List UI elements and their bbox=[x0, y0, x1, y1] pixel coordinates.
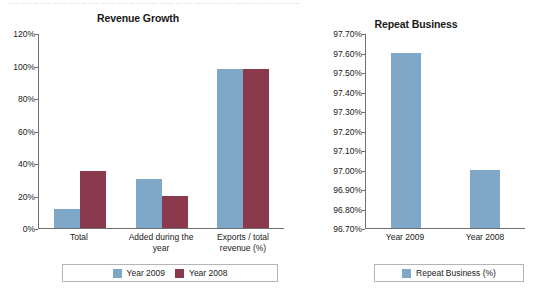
revenue-legend-swatch-icon bbox=[175, 269, 184, 278]
repeat-y-tick-mark bbox=[362, 229, 365, 230]
repeat-y-tick-mark bbox=[362, 132, 365, 133]
repeat-bar[interactable] bbox=[470, 170, 500, 229]
revenue-legend-item[interactable]: Year 2008 bbox=[175, 268, 227, 278]
revenue-y-tick-mark bbox=[35, 132, 38, 133]
repeat-y-tick: 96.70% bbox=[333, 225, 362, 234]
repeat-y-tick-mark bbox=[362, 112, 365, 113]
revenue-y-tick: 120% bbox=[13, 30, 35, 39]
revenue-y-tick-mark bbox=[35, 67, 38, 68]
repeat-legend: Repeat Business (%) bbox=[374, 264, 524, 282]
revenue-category-labels: TotalAdded during the yearExports / tota… bbox=[38, 232, 284, 254]
repeat-legend-swatch-icon bbox=[402, 269, 411, 278]
repeat-category-label: Year 2009 bbox=[365, 232, 445, 243]
revenue-y-tick-mark bbox=[35, 34, 38, 35]
revenue-bar-group bbox=[121, 34, 203, 228]
repeat-bar-groups bbox=[366, 34, 525, 228]
repeat-business-chart: Repeat Business 96.70%96.80%96.90%97.00%… bbox=[292, 6, 543, 288]
repeat-y-tick: 96.90% bbox=[333, 186, 362, 195]
revenue-bar[interactable] bbox=[136, 179, 162, 228]
revenue-y-tick: 60% bbox=[18, 127, 35, 136]
revenue-bar-group bbox=[202, 34, 284, 228]
revenue-bar-group bbox=[39, 34, 121, 228]
revenue-legend-label: Year 2009 bbox=[127, 268, 165, 278]
revenue-legend: Year 2009Year 2008 bbox=[62, 264, 278, 282]
repeat-y-tick-mark bbox=[362, 190, 365, 191]
revenue-legend-label: Year 2008 bbox=[189, 268, 227, 278]
revenue-bar[interactable] bbox=[80, 171, 106, 228]
revenue-y-tick: 100% bbox=[13, 62, 35, 71]
revenue-plot-area: 0%20%40%60%80%100%120% bbox=[38, 34, 284, 229]
repeat-y-tick-mark bbox=[362, 210, 365, 211]
revenue-category-label: Added during the year bbox=[120, 232, 202, 254]
repeat-bar-group bbox=[366, 34, 446, 228]
charts-page: — — —— — —— ——— —— — —— ——— —— — ———— ——… bbox=[0, 0, 543, 288]
repeat-y-tick-mark bbox=[362, 34, 365, 35]
repeat-y-tick: 97.60% bbox=[333, 49, 362, 58]
repeat-category-label: Year 2008 bbox=[445, 232, 525, 243]
revenue-category-label: Exports / total revenue (%) bbox=[202, 232, 284, 254]
revenue-y-tick-mark bbox=[35, 164, 38, 165]
repeat-bar[interactable] bbox=[391, 53, 421, 229]
revenue-growth-chart: Revenue Growth 0%20%40%60%80%100%120% To… bbox=[0, 6, 292, 288]
revenue-bar[interactable] bbox=[162, 196, 188, 229]
revenue-y-tick: 40% bbox=[18, 160, 35, 169]
revenue-legend-swatch-icon bbox=[113, 269, 122, 278]
revenue-y-tick: 0% bbox=[23, 225, 35, 234]
revenue-bar[interactable] bbox=[243, 69, 269, 228]
revenue-bar-groups bbox=[39, 34, 284, 228]
repeat-legend-label: Repeat Business (%) bbox=[416, 268, 496, 278]
repeat-bar-group bbox=[446, 34, 526, 228]
repeat-y-tick-mark bbox=[362, 54, 365, 55]
repeat-y-tick: 97.30% bbox=[333, 108, 362, 117]
revenue-y-tick: 20% bbox=[18, 192, 35, 201]
revenue-chart-title: Revenue Growth bbox=[0, 12, 284, 24]
repeat-y-tick-mark bbox=[362, 151, 365, 152]
revenue-category-label: Total bbox=[38, 232, 120, 254]
repeat-category-labels: Year 2009Year 2008 bbox=[365, 232, 525, 243]
repeat-legend-item[interactable]: Repeat Business (%) bbox=[402, 268, 496, 278]
revenue-y-tick-mark bbox=[35, 197, 38, 198]
repeat-y-tick: 97.10% bbox=[333, 147, 362, 156]
revenue-bar[interactable] bbox=[217, 69, 243, 228]
revenue-y-tick: 80% bbox=[18, 95, 35, 104]
repeat-y-tick-mark bbox=[362, 73, 365, 74]
revenue-legend-item[interactable]: Year 2009 bbox=[113, 268, 165, 278]
repeat-y-tick-mark bbox=[362, 93, 365, 94]
repeat-y-tick: 97.00% bbox=[333, 166, 362, 175]
repeat-y-tick: 97.40% bbox=[333, 88, 362, 97]
revenue-y-tick-mark bbox=[35, 229, 38, 230]
revenue-bar[interactable] bbox=[54, 209, 80, 229]
revenue-y-tick-mark bbox=[35, 99, 38, 100]
repeat-y-tick: 97.70% bbox=[333, 30, 362, 39]
repeat-y-tick: 97.50% bbox=[333, 69, 362, 78]
repeat-y-tick: 96.80% bbox=[333, 205, 362, 214]
repeat-y-tick-mark bbox=[362, 171, 365, 172]
repeat-plot-area: 96.70%96.80%96.90%97.00%97.10%97.20%97.3… bbox=[365, 34, 525, 229]
repeat-y-tick: 97.20% bbox=[333, 127, 362, 136]
